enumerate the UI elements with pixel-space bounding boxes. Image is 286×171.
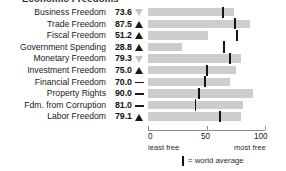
chart-rows: Business Freedom73.6Trade Freedom87.5Fis… (0, 7, 286, 123)
row-trend-indicator (134, 100, 145, 112)
row-category-label: Fiscal Freedom (0, 30, 106, 42)
row-plot-area (148, 100, 286, 112)
world-average-tick (223, 41, 225, 52)
score-bar (148, 89, 253, 97)
row-score-value: 81.0 (110, 100, 132, 112)
trend-up-icon (135, 21, 143, 28)
row-score-value: 70.0 (110, 77, 132, 89)
score-bar (148, 8, 234, 16)
row-score-value: 28.8 (110, 42, 132, 54)
axis-tick (207, 126, 208, 130)
x-axis-labels: 0 50 100 least free most free (0, 132, 286, 143)
chart-row: Business Freedom73.6 (0, 7, 286, 19)
row-category-label: Government Spending (0, 42, 106, 54)
axis-tick (148, 126, 149, 130)
score-bar (148, 66, 236, 74)
row-plot-area (148, 88, 286, 100)
row-score-value: 75.0 (110, 65, 132, 77)
world-average-tick (219, 111, 221, 122)
row-plot-area (148, 65, 286, 77)
axis-least-free-label: least free (148, 143, 179, 152)
page-title: Economic Freedoms (22, 0, 119, 4)
row-trend-indicator (134, 77, 145, 89)
row-score-value: 90.0 (110, 88, 132, 100)
chart-row: Labor Freedom79.1 (0, 111, 286, 123)
row-plot-area (148, 7, 286, 19)
axis-tick-label-0: 0 (148, 132, 153, 141)
row-category-label: Property Rights (0, 88, 106, 100)
chart-row: Investment Freedom75.0 (0, 65, 286, 77)
row-score-value: 79.1 (110, 111, 132, 123)
row-plot-area (148, 42, 286, 54)
world-average-tick (195, 99, 197, 110)
row-category-label: Trade Freedom (0, 19, 106, 31)
world-average-tick (229, 53, 231, 64)
score-bar (148, 31, 208, 39)
trend-up-icon (135, 44, 143, 51)
axis-tick-label-50: 50 (201, 132, 210, 141)
row-plot-area (148, 53, 286, 65)
row-plot-area (148, 77, 286, 89)
chart-row: Fdm. from Corruption81.0 (0, 100, 286, 112)
row-plot-area (148, 111, 286, 123)
trend-down-icon (135, 56, 143, 63)
world-average-tick (206, 65, 208, 76)
chart-row: Property Rights90.0 (0, 88, 286, 100)
chart-row: Government Spending28.8 (0, 42, 286, 54)
world-average-tick (204, 76, 206, 87)
row-category-label: Investment Freedom (0, 65, 106, 77)
row-plot-area (148, 30, 286, 42)
row-category-label: Financial Freedom (0, 77, 106, 89)
row-trend-indicator (134, 7, 145, 19)
trend-up-icon (135, 32, 143, 39)
trend-flat-icon (135, 93, 144, 95)
world-average-tick (222, 7, 224, 18)
world-average-tick (236, 30, 238, 41)
row-trend-indicator (134, 111, 145, 123)
row-trend-indicator (134, 19, 145, 31)
axis-tick-label-100: 100 (254, 132, 268, 141)
axis-tick (265, 126, 266, 130)
chart-row: Financial Freedom70.0 (0, 77, 286, 89)
trend-up-icon (135, 114, 143, 121)
chart-title-strip: Economic Freedoms (0, 0, 286, 5)
row-score-value: 51.2 (110, 30, 132, 42)
trend-flat-icon (135, 105, 144, 107)
trend-up-icon (135, 67, 143, 74)
world-average-marker-icon (182, 156, 184, 166)
row-trend-indicator (134, 88, 145, 100)
score-bar (148, 54, 241, 62)
row-category-label: Monetary Freedom (0, 53, 106, 65)
row-score-value: 79.3 (110, 53, 132, 65)
x-axis-line (148, 130, 265, 131)
row-category-label: Labor Freedom (0, 111, 106, 123)
world-average-tick (234, 18, 236, 29)
chart-row: Monetary Freedom79.3 (0, 53, 286, 65)
row-trend-indicator (134, 42, 145, 54)
score-bar (148, 43, 182, 51)
row-category-label: Business Freedom (0, 7, 106, 19)
legend-label: = world average (188, 156, 244, 166)
row-score-value: 73.6 (110, 7, 132, 19)
x-axis-ticks (148, 126, 265, 130)
trend-down-icon (135, 9, 143, 16)
trend-flat-icon (135, 82, 144, 84)
row-trend-indicator (134, 30, 145, 42)
chart-row: Fiscal Freedom51.2 (0, 30, 286, 42)
score-bar (148, 112, 241, 120)
row-score-value: 87.5 (110, 19, 132, 31)
row-category-label: Fdm. from Corruption (0, 100, 106, 112)
world-average-tick (198, 88, 200, 99)
chart-row: Trade Freedom87.5 (0, 19, 286, 31)
row-trend-indicator (134, 65, 145, 77)
row-trend-indicator (134, 53, 145, 65)
row-plot-area (148, 19, 286, 31)
economic-freedom-chart: Economic Freedoms Business Freedom73.6Tr… (0, 0, 286, 171)
score-bar (148, 78, 230, 86)
axis-most-free-label: most free (234, 143, 266, 152)
